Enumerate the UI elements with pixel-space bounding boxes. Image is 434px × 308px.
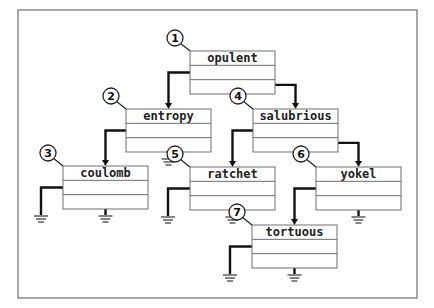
ground-icon bbox=[352, 217, 366, 223]
tree-node: salubrious bbox=[253, 109, 338, 152]
ground-icon bbox=[99, 216, 113, 222]
node-label: tortuous bbox=[266, 225, 324, 239]
badge-number: 3 bbox=[44, 147, 52, 160]
tree-node: entropy bbox=[126, 109, 211, 152]
ground-icon bbox=[161, 217, 175, 223]
node-label: ratchet bbox=[207, 167, 258, 181]
badge-number: 6 bbox=[297, 148, 305, 161]
tree-node: opulent bbox=[190, 51, 275, 94]
node-label: opulent bbox=[207, 51, 258, 65]
badge-number: 1 bbox=[171, 32, 179, 45]
badge-number: 2 bbox=[107, 90, 115, 103]
ground-icon bbox=[288, 275, 302, 281]
badge-number: 5 bbox=[171, 148, 179, 161]
node-number-badge: 1 bbox=[167, 30, 190, 51]
tree-node: coulomb bbox=[63, 166, 148, 209]
node-label: coulomb bbox=[80, 166, 131, 180]
tree-node: yokel bbox=[316, 167, 401, 210]
badge-number: 4 bbox=[234, 90, 242, 103]
node-number-badge: 2 bbox=[103, 88, 126, 109]
node-label: salubrious bbox=[259, 109, 331, 123]
node-number-badge: 3 bbox=[40, 145, 63, 166]
ground-icon bbox=[34, 216, 48, 222]
node-label: entropy bbox=[143, 109, 194, 123]
node-label: yokel bbox=[340, 167, 376, 181]
badge-number: 7 bbox=[233, 206, 241, 219]
tree-node: tortuous bbox=[252, 225, 337, 268]
tree-node: ratchet bbox=[190, 167, 275, 210]
ground-icon bbox=[223, 275, 237, 281]
bst-diagram: opulententropycoulombsalubriousratchetyo… bbox=[0, 0, 434, 308]
